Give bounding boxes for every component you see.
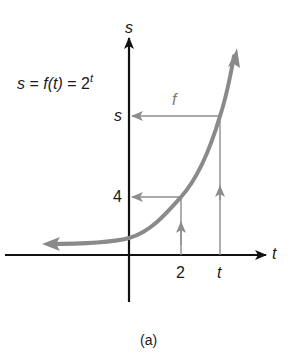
eq-equals-1: = [25,75,43,92]
function-label-f: f [172,92,176,108]
function-equation: s = f(t) = 2t [17,73,93,92]
x-tick-t: t [217,265,221,281]
y-tick-4: 4 [113,189,122,205]
eq-lhs: s [17,75,25,92]
y-tick-s: s [114,108,122,124]
graph-canvas [0,0,296,357]
figure-caption: (a) [140,333,157,347]
x-axis-label: t [272,246,276,262]
x-tick-2: 2 [176,265,185,281]
eq-argument: (t) [48,75,63,92]
eq-equals-2: = 2 [63,75,90,92]
eq-exponent: t [90,72,93,84]
y-axis-label: s [125,20,133,36]
